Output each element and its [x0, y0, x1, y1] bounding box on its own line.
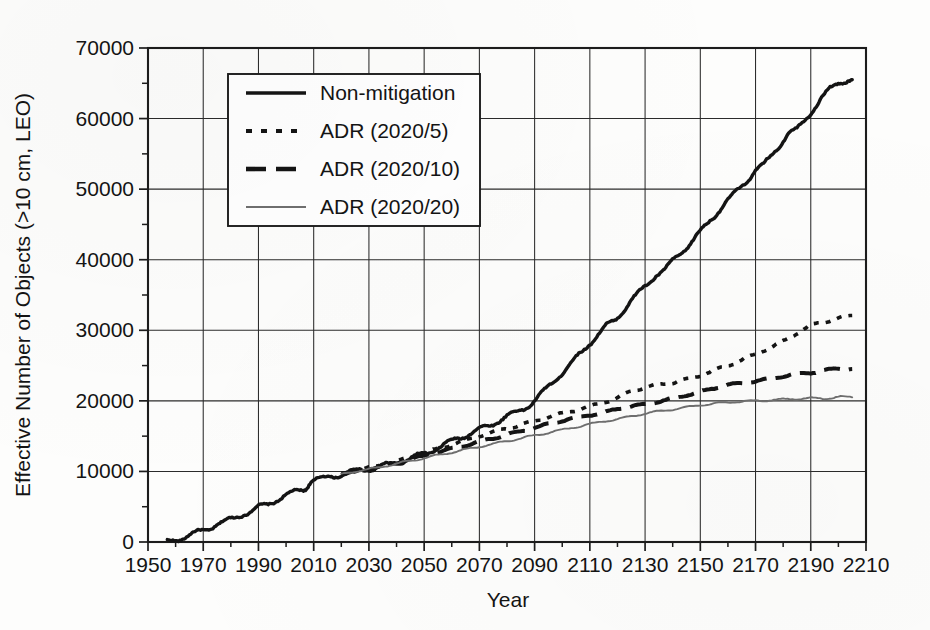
- x-axis-title: Year: [487, 588, 529, 611]
- legend-label: ADR (2020/20): [320, 195, 460, 218]
- x-tick-label: 2050: [401, 553, 448, 576]
- y-tick-label: 70000: [76, 36, 134, 59]
- y-tick-label: 0: [122, 530, 134, 553]
- x-tick-label: 1950: [125, 553, 172, 576]
- x-tick-label: 1970: [180, 553, 227, 576]
- chart-legend: Non-mitigationADR (2020/5)ADR (2020/10)A…: [228, 74, 480, 226]
- x-tick-label: 2070: [456, 553, 503, 576]
- y-tick-label: 60000: [76, 107, 134, 130]
- x-tick-label: 2110: [567, 553, 612, 576]
- legend-label: Non-mitigation: [320, 81, 455, 104]
- figure-container: 1950197019902010203020502070209021102130…: [0, 0, 930, 630]
- x-tick-label: 2190: [787, 553, 834, 576]
- x-tick-label: 2210: [843, 553, 890, 576]
- x-tick-label: 2170: [732, 553, 779, 576]
- y-tick-label: 10000: [76, 459, 134, 482]
- y-tick-label: 30000: [76, 318, 134, 341]
- debris-projection-chart: 1950197019902010203020502070209021102130…: [0, 0, 930, 630]
- x-tick-label: 2090: [511, 553, 558, 576]
- y-tick-label: 50000: [76, 177, 134, 200]
- legend-label: ADR (2020/10): [320, 157, 460, 180]
- x-tick-label: 1990: [235, 553, 282, 576]
- tick-label-layer: 1950197019902010203020502070209021102130…: [76, 36, 890, 576]
- series-line-adr-2020-20: [341, 396, 852, 474]
- x-tick-label: 2030: [346, 553, 393, 576]
- legend-label: ADR (2020/5): [320, 119, 448, 142]
- x-tick-label: 2150: [677, 553, 724, 576]
- y-axis-title: Effective Number of Objects (>10 cm, LEO…: [11, 93, 34, 497]
- x-tick-label: 2010: [290, 553, 337, 576]
- y-tick-label: 40000: [76, 248, 134, 271]
- y-tick-label: 20000: [76, 389, 134, 412]
- x-tick-label: 2130: [622, 553, 669, 576]
